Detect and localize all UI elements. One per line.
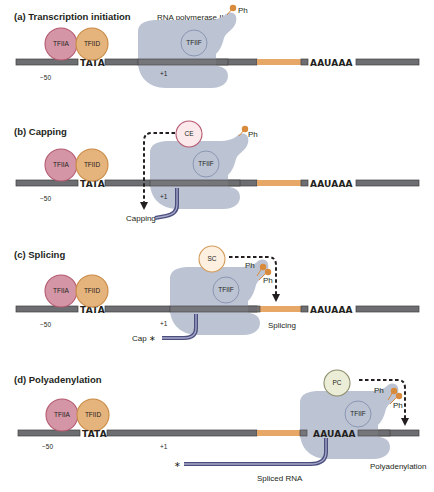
polya-signal: AAUAAA — [310, 305, 353, 315]
spliced-rna-label: Spliced RNA — [257, 474, 303, 483]
rna-polymerase-ii — [170, 259, 268, 335]
tfiif-label: TFIIF — [198, 160, 214, 167]
phosphate-icon — [396, 393, 402, 399]
tfiif-label: TFIIF — [350, 410, 366, 417]
polya-signal: AAUAAA — [310, 179, 353, 189]
tfiif-label: TFIIF — [218, 286, 234, 293]
sc-label: SC — [207, 255, 216, 262]
cap-label: Cap ∗ — [132, 334, 156, 343]
tata-box: TATA — [82, 429, 107, 439]
panel-title: (c) Splicing — [14, 249, 65, 260]
tfiid-label: TFIID — [84, 287, 101, 294]
tfiia-label: TFIIA — [53, 40, 70, 47]
rna-cap-star: ∗ — [174, 460, 181, 469]
phosphate-label: Ph — [248, 130, 258, 139]
panel-a: (a) Transcription initiation RNA polymer… — [14, 5, 419, 88]
panel-title: (b) Capping — [14, 126, 67, 137]
panel-title: (a) Transcription initiation — [14, 11, 131, 22]
capping-label: Capping — [126, 214, 156, 223]
phosphate-icon — [230, 5, 236, 11]
polya-signal: AAUAAA — [313, 429, 356, 439]
rna-processing-diagram: (a) Transcription initiation RNA polymer… — [0, 0, 434, 492]
phosphate-label: Ph — [238, 6, 248, 15]
tfiif-label: TFIIF — [186, 39, 202, 46]
polya-signal: AAUAAA — [310, 58, 353, 68]
tfiid-label: TFIID — [84, 40, 101, 47]
phosphate-label: Ph — [393, 401, 403, 410]
tfiid-label: TFIID — [84, 161, 101, 168]
position-plus1: +1 — [160, 193, 168, 200]
panel-c: (c) Splicing TATA AAUAAA −50 TFIIA TFIID… — [14, 246, 419, 343]
position-plus1: +1 — [160, 70, 168, 77]
position-plus1: +1 — [160, 320, 168, 327]
splicing-label: Splicing — [268, 321, 296, 330]
panel-title: (d) Polyadenylation — [14, 374, 102, 385]
panel-d: (d) Polyadenylation TFIIA TFIID TATA −50… — [14, 370, 426, 483]
polyadenylation-label: Polyadenylation — [370, 462, 426, 471]
position-minus50: −50 — [42, 443, 53, 450]
position-minus50: −50 — [40, 321, 51, 328]
tfiia-label: TFIIA — [53, 161, 70, 168]
pc-label: PC — [332, 379, 341, 386]
phosphate-label: Ph — [374, 386, 384, 395]
phosphate-label: Ph — [245, 261, 255, 270]
tfiia-label: TFIIA — [54, 411, 71, 418]
phosphate-icon — [265, 269, 271, 275]
panel-b: (b) Capping TATA AAUAAA −50 TFIIA TFIID … — [14, 121, 419, 223]
tfiid-label: TFIID — [85, 411, 102, 418]
position-plus1: +1 — [160, 443, 168, 450]
phosphate-icon — [391, 388, 397, 394]
tfiia-label: TFIIA — [53, 287, 70, 294]
phosphate-icon — [260, 264, 266, 270]
phosphate-label: Ph — [263, 276, 273, 285]
position-minus50: −50 — [40, 74, 51, 81]
ce-label: CE — [184, 130, 194, 137]
exon-region — [257, 59, 301, 65]
position-minus50: −50 — [40, 195, 51, 202]
